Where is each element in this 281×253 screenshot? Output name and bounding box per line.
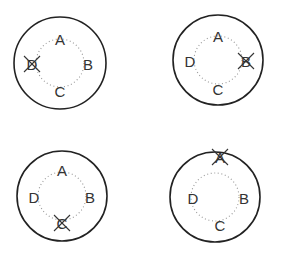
circle-diagram-top-right: ABCD bbox=[173, 15, 263, 105]
label-b: B bbox=[239, 190, 249, 207]
label-b: B bbox=[85, 189, 95, 206]
label-c: C bbox=[213, 81, 224, 98]
circle-diagram-bottom-left: ABCD bbox=[17, 151, 107, 241]
circle-diagram-bottom-right: ABCD bbox=[170, 149, 260, 243]
diagram-canvas: ABCDABCDABCDABCD bbox=[0, 0, 281, 253]
label-c: C bbox=[215, 217, 226, 234]
label-b: B bbox=[83, 56, 93, 73]
label-d: D bbox=[188, 190, 199, 207]
label-a: A bbox=[213, 28, 223, 45]
label-d: D bbox=[29, 189, 40, 206]
circle-diagram-top-left: ABCD bbox=[14, 17, 106, 109]
label-d: D bbox=[185, 53, 196, 70]
label-a: A bbox=[55, 31, 65, 48]
label-c: C bbox=[55, 83, 66, 100]
label-a: A bbox=[57, 162, 67, 179]
dotted-inner-circle bbox=[38, 172, 86, 220]
